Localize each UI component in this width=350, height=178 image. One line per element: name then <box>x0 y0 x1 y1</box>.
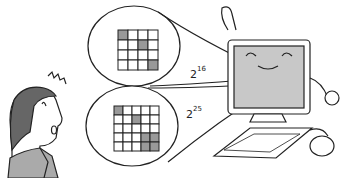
bottom-exponent-label: 225 <box>186 108 202 121</box>
surprised-person-figure <box>8 72 66 178</box>
pixel-grid-4x4 <box>118 30 158 70</box>
top-exponent-label: 216 <box>190 68 206 81</box>
top-exponent: 16 <box>197 65 206 73</box>
bottom-exponent: 25 <box>193 105 202 113</box>
bottom-base: 2 <box>186 108 193 121</box>
pixel-grid-5x5 <box>114 106 159 151</box>
top-base: 2 <box>190 68 197 81</box>
smiling-computer-figure <box>214 7 339 158</box>
illustration-canvas <box>0 0 350 178</box>
